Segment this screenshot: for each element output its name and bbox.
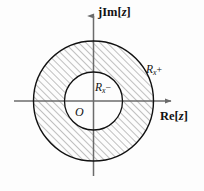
outer-radius-label-sign: +: [157, 64, 163, 75]
roc-annulus-figure: jIm[z] Re[z] Rx+ Rx− O: [0, 0, 204, 191]
inner-radius-label-base: R: [95, 81, 102, 93]
inner-radius-label-sign: −: [106, 82, 112, 93]
figure-canvas: [0, 0, 204, 191]
origin-label: O: [75, 106, 84, 118]
real-axis-label-function: Re: [160, 109, 175, 123]
outer-radius-label-base: R: [146, 63, 153, 75]
outer-radius-label: Rx+: [146, 64, 162, 77]
inner-radius-label: Rx−: [95, 82, 111, 95]
imaginary-axis-label-function: Im: [102, 5, 117, 19]
imaginary-axis-label: jIm[z]: [98, 6, 131, 19]
real-axis-label: Re[z]: [160, 110, 188, 123]
roc-annulus-region: [0, 0, 204, 191]
imaginary-axis-label-close: ]: [127, 5, 131, 19]
real-axis-label-close: ]: [184, 109, 188, 123]
